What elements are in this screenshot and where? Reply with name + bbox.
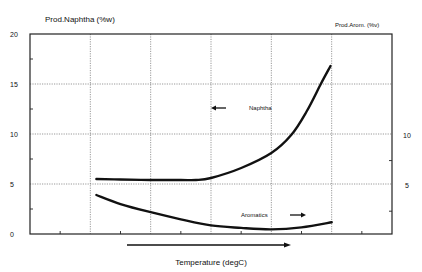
y2-tick-labels: 510 — [403, 132, 411, 190]
temperature-direction-arrow — [127, 243, 291, 248]
temperature-arrowhead — [284, 243, 291, 248]
y2-tick-label: 10 — [403, 132, 411, 139]
grid-lines — [30, 34, 392, 234]
naphtha-annotation: Naphtha — [211, 105, 272, 111]
aromatics-annotation: Aromatics — [241, 212, 306, 218]
aromatics-label: Aromatics — [241, 212, 268, 218]
x-axis-title: Temperature (degC) — [175, 258, 247, 267]
y-axis-title: Prod.Naphtha (%w) — [45, 15, 115, 24]
y-tick-label: 5 — [10, 181, 14, 188]
y-tick-label: 20 — [10, 31, 18, 38]
series-lines — [96, 66, 331, 229]
y-tick-label: 15 — [10, 81, 18, 88]
y-tick-label: 10 — [10, 131, 18, 138]
y-tick-labels: 05101520 — [10, 31, 18, 238]
chart: 05101520 510 Prod.Naphtha (%w) Prod.Arom… — [0, 0, 422, 272]
aromatics-arrowhead — [301, 213, 306, 218]
series-line-aromatics — [96, 195, 331, 229]
naphtha-arrowhead — [211, 106, 216, 111]
y2-tick-label: 5 — [405, 182, 409, 189]
y-tick-label: 0 — [10, 231, 14, 238]
series-line-naphtha — [96, 66, 330, 180]
y2-axis-title: Prod.Arom. (%v) — [335, 22, 379, 28]
naphtha-label: Naphtha — [249, 105, 272, 111]
